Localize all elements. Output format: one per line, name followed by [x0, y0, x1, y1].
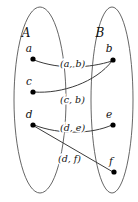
node-label-b: b [106, 42, 113, 54]
set-label-b: B [95, 26, 105, 40]
node-dot-a [30, 56, 35, 61]
node-dot-f [111, 169, 116, 174]
relation-diagram-canvas: A B a c d b e f (a, b) (c, b) (d, e) (d,… [0, 0, 138, 202]
edge-label-d-e: (d, e) [60, 122, 85, 133]
set-label-a: A [21, 26, 31, 40]
node-dot-e [110, 122, 115, 127]
node-label-c: c [26, 75, 32, 87]
node-dot-b [110, 57, 115, 62]
node-label-f: f [108, 155, 115, 167]
node-label-d: d [26, 108, 33, 120]
node-dot-d [30, 122, 35, 127]
node-label-a: a [26, 42, 32, 54]
edge-label-c-b: (c, b) [60, 94, 85, 105]
relation-diagram-figure: A B a c d b e f (a, b) (c, b) (d, e) (d,… [0, 0, 138, 202]
node-label-e: e [106, 108, 112, 120]
edge-label-d-f: (d, f) [58, 153, 81, 164]
node-dot-c [30, 89, 35, 94]
edge-label-a-b: (a, b) [60, 58, 85, 69]
